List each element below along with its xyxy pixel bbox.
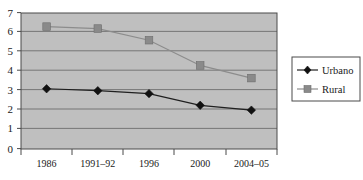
y-tick-label: 4 — [8, 64, 14, 76]
x-tick-label: 2000 — [190, 158, 210, 169]
y-tick-label: 1 — [8, 122, 14, 134]
y-tick-label: 6 — [8, 25, 14, 37]
x-axis-ticks — [21, 149, 277, 155]
legend: Urbano Rural — [292, 57, 360, 101]
y-axis-tick-labels: 7 6 5 4 3 2 1 0 — [8, 7, 14, 155]
square-marker-icon — [43, 23, 51, 31]
y-tick-label: 5 — [8, 45, 14, 57]
square-marker-icon — [94, 25, 102, 33]
x-tick-label: 1986 — [37, 158, 57, 169]
line-chart: 7 6 5 4 3 2 1 0 1986 1991–92 1996 2000 2… — [0, 0, 363, 180]
chart-canvas: 7 6 5 4 3 2 1 0 1986 1991–92 1996 2000 2… — [0, 0, 363, 180]
y-tick-label: 2 — [8, 103, 14, 115]
legend-label-urbano: Urbano — [322, 65, 354, 76]
square-marker-icon — [145, 36, 153, 44]
square-marker-icon — [248, 74, 256, 82]
x-tick-label: 1996 — [139, 158, 159, 169]
legend-label-rural: Rural — [322, 84, 345, 95]
square-marker-icon — [304, 86, 311, 93]
y-tick-label: 0 — [8, 143, 14, 155]
x-tick-label: 2004–05 — [234, 158, 269, 169]
y-tick-label: 3 — [8, 84, 14, 96]
x-tick-label: 1991–92 — [80, 158, 115, 169]
y-axis-ticks — [17, 13, 21, 149]
square-marker-icon — [196, 62, 204, 70]
x-axis-tick-labels: 1986 1991–92 1996 2000 2004–05 — [37, 158, 269, 169]
y-tick-label: 7 — [8, 7, 14, 19]
